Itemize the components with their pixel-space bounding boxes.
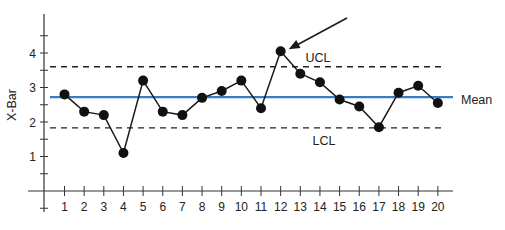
data-point <box>177 110 187 120</box>
data-point <box>315 77 325 87</box>
x-tick-label: 9 <box>218 200 225 214</box>
control-chart: 12341234567891011121314151617181920 X-Ba… <box>0 0 505 230</box>
data-point <box>374 122 384 132</box>
x-tick-label: 1 <box>61 200 68 214</box>
data-point <box>295 69 305 79</box>
data-point <box>413 81 423 91</box>
x-tick-label: 16 <box>353 200 367 214</box>
x-tick-label: 8 <box>199 200 206 214</box>
y-tick-label: 2 <box>29 116 36 130</box>
reference-lines <box>50 67 453 128</box>
x-tick-label: 4 <box>120 200 127 214</box>
x-tick-label: 12 <box>274 200 288 214</box>
out-of-control-arrow <box>289 18 347 49</box>
arrow-shaft <box>295 18 347 46</box>
x-tick-label: 19 <box>412 200 426 214</box>
y-tick-label: 1 <box>29 150 36 164</box>
data-point <box>197 93 207 103</box>
y-tick-label: 4 <box>29 47 36 61</box>
x-tick-label: 6 <box>159 200 166 214</box>
data-point <box>236 76 246 86</box>
x-tick-label: 13 <box>294 200 308 214</box>
data-point <box>60 89 70 99</box>
x-tick-label: 3 <box>100 200 107 214</box>
ucl-label: UCL <box>305 51 330 65</box>
chart-labels: X-Bar UCL LCL Mean <box>5 51 492 148</box>
lcl-label: LCL <box>313 134 336 148</box>
data-point <box>354 101 364 111</box>
x-tick-label: 14 <box>313 200 327 214</box>
axes: 12341234567891011121314151617181920 <box>28 14 453 214</box>
data-point <box>276 46 286 56</box>
data-point <box>217 86 227 96</box>
x-tick-label: 20 <box>431 200 445 214</box>
data-point <box>138 76 148 86</box>
y-tick-label: 3 <box>29 81 36 95</box>
data-point <box>394 88 404 98</box>
mean-label: Mean <box>461 93 492 107</box>
data-point <box>256 103 266 113</box>
x-tick-label: 7 <box>179 200 186 214</box>
data-point <box>79 107 89 117</box>
x-tick-label: 2 <box>81 200 88 214</box>
x-tick-label: 18 <box>392 200 406 214</box>
data-point <box>433 98 443 108</box>
data-point <box>158 107 168 117</box>
x-tick-label: 15 <box>333 200 347 214</box>
data-point <box>335 95 345 105</box>
x-tick-label: 17 <box>372 200 386 214</box>
y-axis-label: X-Bar <box>5 89 19 121</box>
x-tick-label: 11 <box>255 200 268 214</box>
x-tick-label: 10 <box>235 200 249 214</box>
data-point <box>99 110 109 120</box>
x-tick-label: 5 <box>140 200 147 214</box>
data-series <box>60 46 443 158</box>
data-point <box>118 148 128 158</box>
